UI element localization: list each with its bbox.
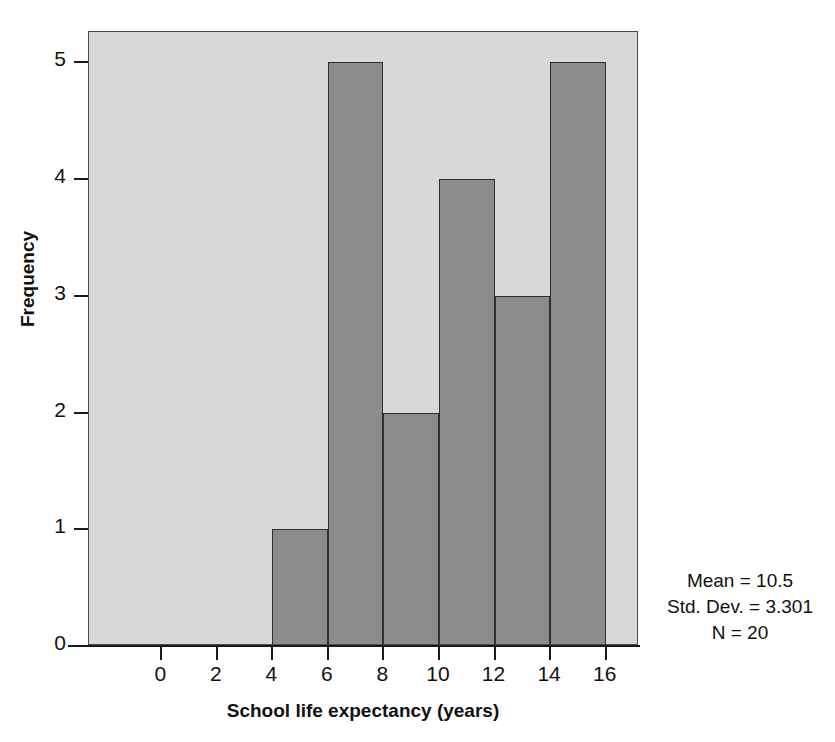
y-axis-label: Frequency: [17, 159, 39, 399]
y-tick-label: 5: [20, 47, 66, 71]
histogram-bar: [328, 62, 384, 645]
x-tick-label: 4: [251, 662, 291, 686]
x-tick-mark: [327, 646, 329, 660]
x-tick-mark: [160, 646, 162, 660]
y-tick-mark: [74, 295, 88, 297]
stat-std-dev: Std. Dev. = 3.301: [650, 594, 830, 620]
x-axis-label: School life expectancy (years): [0, 700, 726, 722]
x-tick-mark: [438, 646, 440, 660]
y-tick-mark: [74, 61, 88, 63]
x-tick-label: 2: [196, 662, 236, 686]
x-tick-mark: [605, 646, 607, 660]
x-tick-label: 14: [529, 662, 569, 686]
histogram-bar: [272, 529, 328, 645]
x-tick-label: 16: [585, 662, 625, 686]
histogram-figure: 0246810121416 School life expectancy (ye…: [0, 0, 835, 742]
y-tick-mark: [74, 412, 88, 414]
x-tick-mark: [549, 646, 551, 660]
stat-n: N = 20: [650, 620, 830, 646]
x-tick-mark: [494, 646, 496, 660]
y-tick-label: 2: [20, 398, 66, 422]
y-tick-mark: [74, 528, 88, 530]
stat-mean: Mean = 10.5: [650, 568, 830, 594]
y-axis-label-text: Frequency: [17, 231, 38, 327]
x-tick-mark: [382, 646, 384, 660]
histogram-bar: [550, 62, 606, 645]
plot-area: [88, 31, 638, 645]
x-tick-mark: [216, 646, 218, 660]
y-tick-label: 1: [20, 514, 66, 538]
x-tick-label: 12: [474, 662, 514, 686]
histogram-bar: [439, 179, 495, 645]
x-tick-mark: [271, 646, 273, 660]
histogram-bar: [383, 413, 439, 645]
x-tick-label: 8: [362, 662, 402, 686]
x-tick-label: 0: [140, 662, 180, 686]
statistics-annotation: Mean = 10.5 Std. Dev. = 3.301 N = 20: [650, 568, 830, 646]
x-axis-line: [68, 645, 640, 647]
histogram-bar: [495, 296, 551, 645]
y-tick-mark: [74, 645, 88, 647]
y-tick-mark: [74, 178, 88, 180]
x-tick-label: 6: [307, 662, 347, 686]
y-tick-label: 0: [20, 631, 66, 655]
x-tick-label: 10: [418, 662, 458, 686]
